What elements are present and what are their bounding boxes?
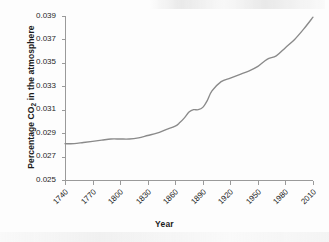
axis-lines: [66, 16, 314, 181]
y-tick-label-0.033: 0.033: [22, 81, 56, 90]
y-tick-label-0.025: 0.025: [22, 175, 56, 184]
axis-ticks: [62, 17, 314, 185]
y-tick-label-0.035: 0.035: [22, 57, 56, 66]
co2-series-line: [65, 17, 313, 144]
y-tick-label-0.027: 0.027: [22, 151, 56, 160]
co2-line-chart: Percentage CO2 in the atmosphere Year 0.…: [0, 0, 329, 242]
y-tick-label-0.029: 0.029: [22, 128, 56, 137]
y-tick-label-0.031: 0.031: [22, 104, 56, 113]
y-tick-label-0.039: 0.039: [22, 11, 56, 20]
y-tick-label-0.037: 0.037: [22, 34, 56, 43]
